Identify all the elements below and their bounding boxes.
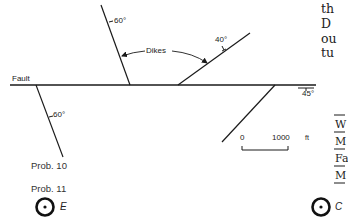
prob-11-label: Prob. 11	[31, 184, 66, 194]
right-symbol-label: C	[335, 202, 342, 212]
scale-end-label: 1000	[272, 134, 290, 142]
margin-text-line: th	[321, 2, 337, 17]
dikes-arrow-right	[172, 51, 207, 63]
dikes-arrow-left	[122, 51, 145, 56]
dip-tick-upper	[109, 21, 113, 22]
right-margin-text: th D ou tu	[321, 2, 337, 61]
left-symbol-label: E	[60, 202, 67, 212]
dike-middle-line	[178, 33, 250, 85]
scale-unit-label: ft	[305, 134, 309, 141]
dip-label-fault-branch: 60°	[53, 111, 65, 119]
dip-tick-middle-stem	[222, 46, 224, 50]
dike-lower-line	[222, 85, 275, 142]
fault-branch-line	[36, 85, 63, 157]
table-cell: M	[335, 135, 346, 148]
dip-label-middle-dike: 40°	[215, 36, 227, 44]
dip-label-upper-dike: 60°	[114, 17, 126, 25]
margin-text-line: tu	[321, 46, 337, 61]
scale-start-label: 0	[240, 134, 244, 142]
dikes-label: Dikes	[146, 47, 166, 55]
bullseye-dot-left	[43, 205, 46, 208]
table-cell: Fa	[335, 152, 348, 165]
bullseye-dot-right	[319, 205, 322, 208]
fault-label: Fault	[12, 75, 30, 83]
dip-label-fault-east: 45°	[302, 90, 314, 98]
margin-text-line: ou	[321, 32, 337, 47]
prob-10-label: Prob. 10	[31, 161, 67, 171]
margin-text-line: D	[321, 17, 337, 32]
table-cell: W	[335, 118, 346, 131]
table-cell: M	[335, 169, 346, 182]
